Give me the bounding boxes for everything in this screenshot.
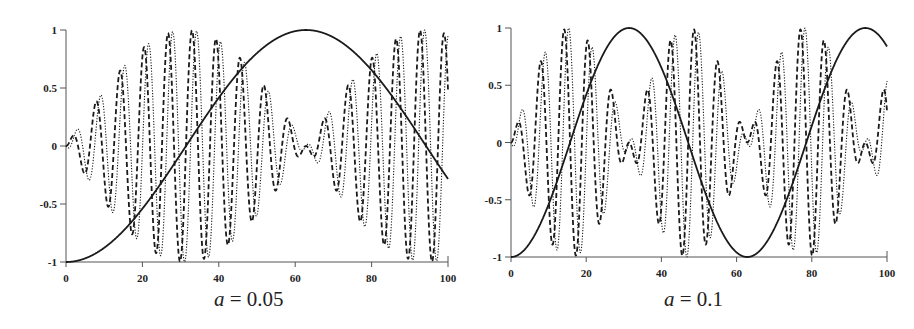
x-tick-label: 0 xyxy=(63,272,69,284)
x-tick-label: 0 xyxy=(508,267,514,279)
y-tick-label: -0.5 xyxy=(40,198,58,210)
x-tick-label: 80 xyxy=(366,272,378,284)
y-tick-label: -0.5 xyxy=(485,194,503,206)
chart-panel-a-0.1: -1-0.500.51020406080100 a = 0.1 xyxy=(458,0,914,329)
caption-right: a = 0.1 xyxy=(664,287,723,312)
x-tick-label: 40 xyxy=(213,272,225,284)
x-tick-label: 20 xyxy=(137,272,149,284)
y-tick-label: 0 xyxy=(52,140,58,152)
caption-value: = 0.05 xyxy=(225,287,284,311)
plot-area-right: -1-0.500.51020406080100 xyxy=(458,0,914,329)
caption-variable: a xyxy=(664,287,675,311)
x-tick-label: 40 xyxy=(656,267,668,279)
chart-panel-a-0.05: -1-0.500.51020406080100 a = 0.05 xyxy=(0,0,460,329)
caption-value: = 0.1 xyxy=(675,287,724,311)
y-tick-label: -1 xyxy=(493,251,502,263)
x-tick-label: 100 xyxy=(879,267,896,279)
x-tick-label: 20 xyxy=(581,267,593,279)
x-tick-label: 60 xyxy=(290,272,302,284)
x-tick-label: 100 xyxy=(440,272,457,284)
caption-variable: a xyxy=(214,287,225,311)
y-tick-label: -1 xyxy=(48,256,57,268)
y-tick-label: 1 xyxy=(497,22,503,34)
series-dashed-line xyxy=(66,30,448,261)
y-tick-label: 0 xyxy=(497,137,503,149)
x-tick-label: 80 xyxy=(806,267,818,279)
x-tick-label: 60 xyxy=(731,267,743,279)
plot-area-left: -1-0.500.51020406080100 xyxy=(0,0,460,329)
y-tick-label: 1 xyxy=(52,24,58,36)
y-tick-label: 0.5 xyxy=(43,82,57,94)
caption-left: a = 0.05 xyxy=(214,287,284,312)
y-tick-label: 0.5 xyxy=(488,79,502,91)
